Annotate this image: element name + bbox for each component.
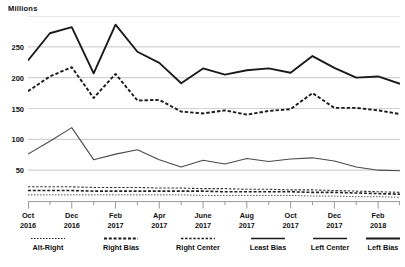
x-axis-tick-label: Apr2017 [139,211,179,230]
y-axis-tick-label: 250 [2,42,24,51]
chart-legend: Alt-RightRight BiasRight CenterLeast Bia… [0,236,405,264]
legend-label: Right Bias [84,243,158,252]
legend-swatch [11,236,85,242]
x-tick-month: Dec [314,211,354,221]
y-axis-tick-label: 50 [2,166,24,175]
x-tick-month: Dec [52,211,92,221]
y-axis-tick-label: 150 [2,104,24,113]
x-axis-tick-label: Feb2017 [96,211,136,230]
y-axis-unit-label: Millions [8,4,38,13]
x-tick-year: 2017 [314,221,354,231]
x-axis-tick-labels: Oct2016Dec2016Feb2017Apr2017June2017Aug2… [28,211,400,235]
x-tick-year: 2016 [8,221,48,231]
x-axis-tick-label: Dec2017 [314,211,354,230]
series-line-left-center [28,67,400,114]
x-tick-year: 2016 [52,221,92,231]
x-tick-year: 2017 [271,221,311,231]
legend-swatch [84,236,158,242]
series-line-least-bias [28,128,400,171]
x-tick-month: Aug [227,211,267,221]
legend-item-right-bias[interactable]: Right Bias [84,236,158,252]
x-tick-month: Feb [96,211,136,221]
series-line-alt-right [28,195,400,197]
legend-swatch [346,236,405,242]
x-axis-tick-label: Oct2017 [271,211,311,230]
x-axis-ticks [28,201,400,211]
legend-label: Alt-Right [11,243,85,252]
x-tick-year: 2017 [139,221,179,231]
x-axis-tick-label: June2017 [183,211,223,230]
x-tick-month: June [183,211,223,221]
plot-area [28,16,400,201]
x-tick-month: Oct [8,211,48,221]
legend-swatch [161,236,235,242]
x-tick-month: Apr [139,211,179,221]
legend-label: Right Center [161,243,235,252]
x-tick-year: 2017 [96,221,136,231]
legend-item-right-center[interactable]: Right Center [161,236,235,252]
series-line-left-bias [28,25,400,84]
x-axis-tick-label: Dec2016 [52,211,92,230]
x-tick-month: Feb [358,211,398,221]
x-tick-month: Oct [271,211,311,221]
legend-item-left-bias[interactable]: Left Bias [346,236,405,252]
x-axis [28,201,400,211]
legend-label: Left Bias [346,243,405,252]
x-axis-tick-label: Oct2016 [8,211,48,230]
series-line-right-center [28,187,400,193]
x-tick-year: 2017 [183,221,223,231]
line-chart: Millions 50100150200250 Oct2016Dec2016Fe… [0,0,405,267]
x-tick-year: 2018 [358,221,398,231]
legend-item-alt-right[interactable]: Alt-Right [11,236,85,252]
y-axis-tick-label: 200 [2,73,24,82]
y-axis-tick-label: 100 [2,135,24,144]
x-tick-year: 2017 [227,221,267,231]
x-axis-tick-label: Feb2018 [358,211,398,230]
series-canvas [28,16,400,201]
x-axis-tick-label: Aug2017 [227,211,267,230]
